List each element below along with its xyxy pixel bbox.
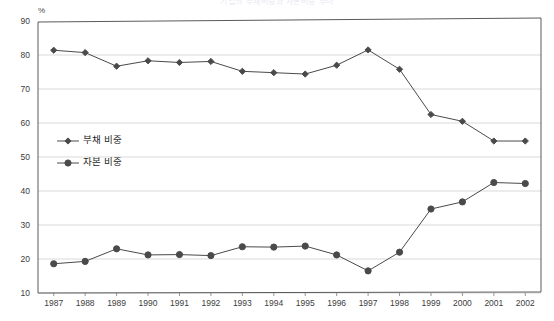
y-tick-label: 60 [4, 119, 30, 127]
chart-container: 기업의 부채비중과 자본비중 추이 % 102030405060708090 1… [0, 0, 554, 321]
legend-markers [57, 138, 79, 166]
y-tick-label: 10 [4, 289, 30, 297]
gridlines [38, 55, 541, 293]
series-layer [51, 47, 529, 274]
y-tick-label: 40 [4, 187, 30, 195]
y-tick-label: 70 [4, 85, 30, 93]
y-tick-label: 30 [4, 221, 30, 229]
y-tick-label: 90 [4, 17, 30, 25]
legend-label-0: 부채 비중 [83, 135, 122, 145]
y-tick-label: 80 [4, 51, 30, 59]
series-line-1 [54, 183, 526, 271]
series-line-0 [54, 50, 526, 141]
y-tick-label: 50 [4, 153, 30, 161]
y-tick-label: 20 [4, 255, 30, 263]
x-tick-label: 2002 [505, 299, 545, 308]
legend-label-1: 자본 비중 [83, 157, 122, 167]
